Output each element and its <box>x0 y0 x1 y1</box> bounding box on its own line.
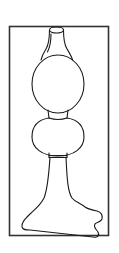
stem-and-base <box>22 157 102 237</box>
upper-collar <box>48 110 68 120</box>
upper-sphere <box>32 55 84 113</box>
lamp-drawing <box>0 0 119 253</box>
frame-border <box>10 27 109 236</box>
figure-canvas: Line drawing of a lamp-like vessel with … <box>0 0 119 253</box>
lower-sphere <box>32 118 84 156</box>
lower-collar <box>49 153 67 158</box>
